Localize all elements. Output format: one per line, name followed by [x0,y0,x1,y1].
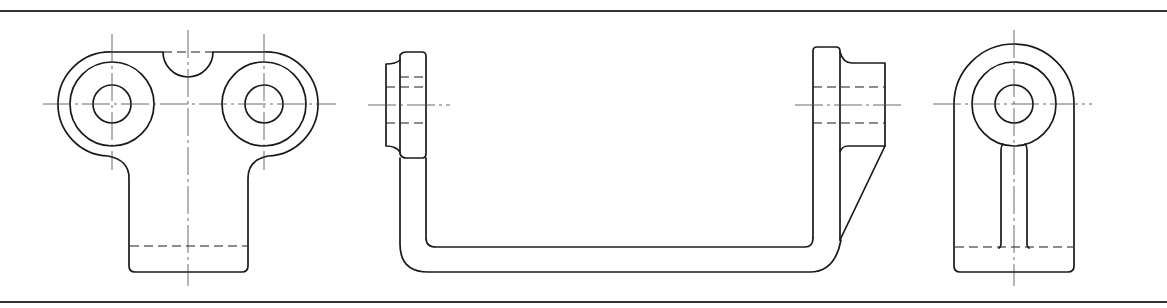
drawing-canvas [0,0,1167,308]
drawing-sheet: Three-view technical drawing of a bracke… [0,0,1167,308]
front-view [43,30,336,286]
top-view [368,47,903,272]
side-view [933,30,1092,286]
